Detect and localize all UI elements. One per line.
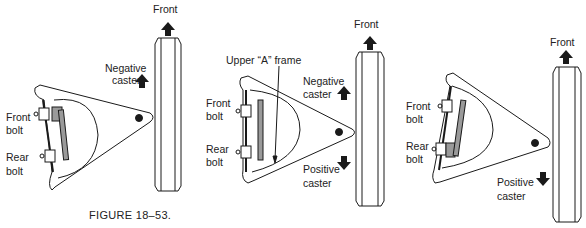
figure-caption: FIGURE 18–53. <box>89 209 171 221</box>
rear-bolt-label: bolt <box>6 165 23 177</box>
front-label: Front <box>550 36 575 48</box>
negative-caster-label: Negative <box>105 62 146 74</box>
positive-caster-label: caster <box>497 190 526 202</box>
front-bolt-label: Front <box>406 100 431 112</box>
front-bolt-label: Front <box>206 97 231 109</box>
negative-caster-arrow-icon <box>337 86 351 100</box>
positive-caster-label: Positive <box>497 176 534 188</box>
front-bolt-label: bolt <box>406 113 423 125</box>
panel-left <box>34 22 181 191</box>
tire <box>356 52 384 206</box>
front-bolt-label: bolt <box>206 110 223 122</box>
front-arrow-icon <box>559 50 573 64</box>
tire <box>553 67 581 222</box>
positive-caster-label: caster <box>303 177 332 189</box>
upper-a-frame-label: Upper “A” frame <box>226 54 301 66</box>
upper-a-frame <box>34 85 153 190</box>
rear-bolt-label: bolt <box>406 153 423 165</box>
negative-caster-label: caster <box>303 88 332 100</box>
front-arrow-icon <box>363 36 377 50</box>
rear-bolt-label: Rear <box>406 140 429 152</box>
front-bolt-label: Front <box>6 111 31 123</box>
positive-caster-label: Positive <box>303 163 340 175</box>
rear-bolt-label: bolt <box>206 156 223 168</box>
front-bolt-label: bolt <box>6 124 23 136</box>
tire <box>155 38 181 191</box>
front-label: Front <box>153 3 178 15</box>
positive-caster-arrow-icon <box>536 172 550 186</box>
upper-a-frame <box>432 73 550 183</box>
negative-caster-label: Negative <box>303 75 344 87</box>
negative-caster-label: caster <box>112 74 141 86</box>
rear-bolt-label: Rear <box>206 143 229 155</box>
front-label: Front <box>354 18 379 30</box>
rear-bolt-label: Rear <box>6 151 29 163</box>
front-arrow-icon <box>161 22 175 36</box>
